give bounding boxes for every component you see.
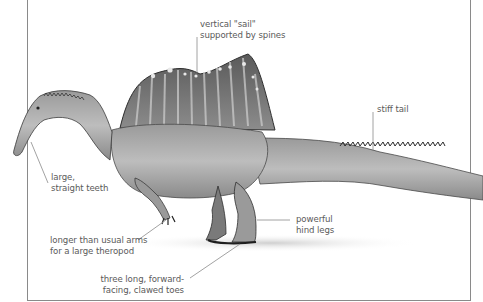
label-sail-line2: supported by spines: [200, 30, 285, 41]
label-tail: stiff tail: [377, 104, 408, 115]
spinosaurus-diagram: vertical "sail" supported by spines stif…: [0, 0, 483, 302]
label-arms-line2: for a large theropod: [50, 246, 134, 257]
toes-leader: [190, 244, 240, 278]
label-teeth-line2: straight teeth: [51, 183, 108, 194]
leader-lines: [0, 0, 483, 302]
label-legs: powerful hind legs: [296, 214, 334, 235]
label-sail: vertical "sail" supported by spines: [200, 19, 285, 40]
label-arms-line1: longer than usual arms: [50, 235, 134, 246]
label-toes-line1: three long, forward-: [100, 274, 184, 285]
label-teeth: large, straight teeth: [51, 172, 108, 193]
label-teeth-line1: large,: [51, 172, 108, 183]
label-arms: longer than usual arms for a large thero…: [50, 235, 134, 256]
teeth-leader: [31, 142, 48, 183]
label-sail-line1: vertical "sail": [200, 19, 285, 30]
label-legs-line2: hind legs: [296, 225, 334, 236]
label-toes-line2: facing, clawed toes: [100, 285, 184, 296]
label-legs-line1: powerful: [296, 214, 334, 225]
label-tail-line1: stiff tail: [377, 104, 408, 115]
label-toes: three long, forward- facing, clawed toes: [100, 274, 184, 295]
